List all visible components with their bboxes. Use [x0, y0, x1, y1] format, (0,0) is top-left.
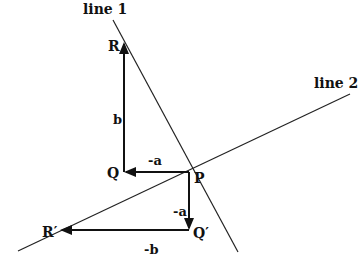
vector-q-prime-r-prime-label: -b — [144, 242, 159, 257]
point-q-label: Q — [107, 165, 119, 181]
diagram-canvas: line 1 line 2 P Q R Q′ R′ -a b -a -b — [0, 0, 361, 266]
line-1-label: line 1 — [83, 1, 127, 17]
point-p-label: P — [194, 170, 205, 186]
vector-pq-label: -a — [148, 153, 162, 168]
point-r-prime-label: R′ — [42, 224, 58, 240]
point-q-prime-label: Q′ — [193, 225, 209, 241]
vector-pq-prime-label: -a — [173, 204, 187, 219]
line-2-label: line 2 — [314, 75, 358, 91]
vector-qr-label: b — [113, 112, 122, 127]
point-r-label: R — [108, 38, 120, 54]
